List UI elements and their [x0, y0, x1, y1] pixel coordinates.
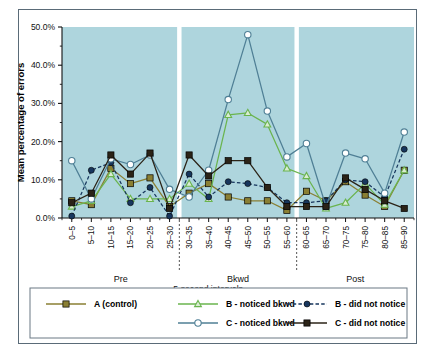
y-axis-title: Mean percentage of errors [15, 63, 26, 182]
point-b-did-not-notice-legend [304, 301, 310, 307]
point-c-noticed-bkwd-14 [342, 150, 348, 156]
point-b-did-not-notice-4 [147, 184, 153, 190]
x-tick-label-8: 40–45 [224, 226, 233, 249]
x-tick-label-11: 55–60 [283, 226, 292, 249]
y-tick-label-50: 50.0% [31, 22, 56, 32]
point-c-noticed-bkwd-15 [362, 156, 368, 162]
point-c-noticed-bkwd-9 [245, 31, 251, 37]
phase-label-bkwd: Bkwd [227, 274, 249, 284]
phase-label-post: Post [346, 274, 365, 284]
y-tick-label-40: 40.0% [31, 60, 56, 70]
x-tick-label-16: 80–85 [381, 226, 390, 249]
x-tick-label-3: 15–20 [126, 226, 135, 249]
point-a-control-4 [147, 175, 153, 181]
x-tick-label-0: 0–5 [68, 226, 77, 240]
point-b-did-not-notice-17 [401, 146, 407, 152]
point-c-did-not-notice-15 [362, 186, 368, 192]
y-tick-label-20: 20.0% [31, 137, 56, 147]
point-a-control-3 [127, 181, 133, 187]
point-b-did-not-notice-9 [245, 181, 251, 187]
point-a-control-10 [264, 198, 270, 204]
plot-background [62, 27, 414, 218]
point-c-did-not-notice-3 [127, 171, 133, 177]
point-b-did-not-notice-6 [186, 171, 192, 177]
point-c-did-not-notice-10 [264, 184, 270, 190]
point-c-did-not-notice-4 [147, 150, 153, 156]
x-tick-label-7: 35–40 [205, 226, 214, 249]
legend-label-c-noticed-bkwd: C - noticed bkwd [226, 318, 295, 328]
point-b-did-not-notice-0 [69, 213, 75, 219]
x-tick-label-12: 60–65 [302, 226, 311, 249]
legend-box [30, 288, 407, 338]
point-c-did-not-notice-13 [323, 203, 329, 209]
y-tick-label-30: 30.0% [31, 98, 56, 108]
point-c-noticed-bkwd-11 [284, 154, 290, 160]
point-a-control-9 [245, 198, 251, 204]
x-tick-label-17: 85–90 [400, 226, 409, 249]
chart-figure: 0.0%10.0%20.0%30.0%40.0%50.0%Mean percen… [0, 0, 435, 353]
point-c-noticed-bkwd-8 [225, 96, 231, 102]
x-tick-label-2: 10–15 [107, 226, 116, 249]
x-tick-label-5: 25–30 [166, 226, 175, 249]
point-c-did-not-notice-14 [342, 175, 348, 181]
point-c-did-not-notice-1 [88, 190, 94, 196]
point-b-did-not-notice-7 [206, 194, 212, 200]
point-c-noticed-bkwd-7 [205, 167, 211, 173]
point-c-did-not-notice-11 [284, 203, 290, 209]
point-c-noticed-bkwd-16 [381, 190, 387, 196]
point-c-did-not-notice-17 [401, 205, 407, 211]
point-b-did-not-notice-8 [225, 179, 231, 185]
point-c-noticed-bkwd-6 [186, 194, 192, 200]
x-tick-label-4: 20–25 [146, 226, 155, 249]
point-c-did-not-notice-8 [225, 158, 231, 164]
x-tick-label-14: 70–75 [342, 226, 351, 249]
x-tick-label-9: 45–50 [244, 226, 253, 249]
phase-divider-band-1 [294, 27, 298, 218]
x-tick-label-6: 30–35 [185, 226, 194, 249]
point-c-noticed-bkwd-10 [264, 108, 270, 114]
point-c-did-not-notice-5 [166, 205, 172, 211]
point-b-did-not-notice-3 [127, 200, 133, 206]
point-c-did-not-notice-9 [245, 158, 251, 164]
point-a-control-12 [303, 188, 309, 194]
point-c-did-not-notice-12 [303, 203, 309, 209]
point-c-did-not-notice-2 [108, 152, 114, 158]
point-c-did-not-notice-0 [69, 200, 75, 206]
x-tick-label-10: 50–55 [263, 226, 272, 249]
point-c-did-not-notice-16 [382, 198, 388, 204]
point-c-noticed-bkwd-0 [69, 158, 75, 164]
point-c-noticed-bkwd-legend [195, 320, 201, 326]
y-tick-label-10: 10.0% [31, 175, 56, 185]
point-b-did-not-notice-15 [362, 179, 368, 185]
point-a-control-legend [63, 301, 69, 307]
phase-label-pre: Pre [114, 274, 128, 284]
point-c-noticed-bkwd-12 [303, 140, 309, 146]
point-c-noticed-bkwd-1 [88, 196, 94, 202]
legend-label-b-noticed-bkwd: B - noticed bkwd [226, 299, 295, 309]
point-c-did-not-notice-7 [206, 173, 212, 179]
point-c-noticed-bkwd-5 [166, 186, 172, 192]
point-c-did-not-notice-6 [186, 152, 192, 158]
y-tick-label-0: 0.0% [36, 213, 56, 223]
point-b-did-not-notice-1 [88, 167, 94, 173]
legend-label-c-did-not-notice: C - did not notice [335, 318, 405, 328]
line-chart: 0.0%10.0%20.0%30.0%40.0%50.0%Mean percen… [0, 0, 435, 353]
point-a-control-8 [225, 194, 231, 200]
x-tick-label-13: 65–70 [322, 226, 331, 249]
point-c-noticed-bkwd-3 [127, 161, 133, 167]
point-c-noticed-bkwd-17 [401, 129, 407, 135]
legend-label-b-did-not-notice: B - did not notice [335, 299, 405, 309]
point-c-did-not-notice-legend [304, 320, 310, 326]
point-b-did-not-notice-5 [167, 213, 173, 219]
legend-label-a-control: A (control) [94, 299, 137, 309]
x-tick-label-15: 75–80 [361, 226, 370, 249]
x-tick-label-1: 5–10 [87, 226, 96, 245]
point-a-control-7 [206, 181, 212, 187]
point-a-control-15 [362, 192, 368, 198]
